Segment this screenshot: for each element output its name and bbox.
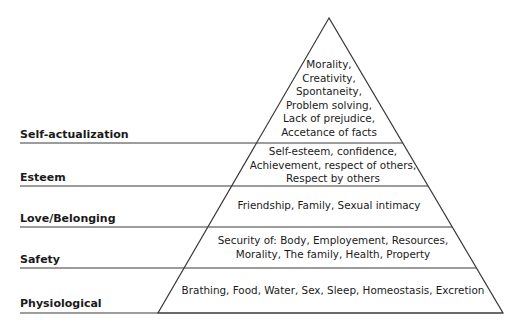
- tier-love-belonging-text: Friendship, Family, Sexual intimacy: [238, 199, 421, 213]
- maslow-pyramid-diagram: Self-actualization Esteem Love/Belonging…: [0, 0, 517, 330]
- label-physiological: Physiological: [20, 297, 102, 310]
- tier-text-line: Achievement, respect of others,: [250, 159, 416, 173]
- tier-text-line: Spontaneity,: [281, 85, 377, 99]
- tier-text-line: Morality, The family, Health, Property: [218, 248, 448, 262]
- tier-self-actualization-text: Morality, Creativity, Spontaneity, Probl…: [281, 58, 377, 139]
- label-love-belonging: Love/Belonging: [20, 212, 116, 225]
- tier-text-line: Self-esteem, confidence,: [250, 145, 416, 159]
- tier-safety-text: Security of: Body, Employement, Resource…: [218, 234, 448, 261]
- label-esteem: Esteem: [20, 171, 66, 184]
- tier-text-line: Morality,: [281, 58, 377, 72]
- tier-physiological-text: Brathing, Food, Water, Sex, Sleep, Homeo…: [182, 284, 485, 298]
- tier-text-line: Accetance of facts: [281, 126, 377, 140]
- label-self-actualization: Self-actualization: [20, 128, 129, 141]
- tier-text-line: Brathing, Food, Water, Sex, Sleep, Homeo…: [182, 284, 485, 298]
- tier-esteem-text: Self-esteem, confidence, Achievement, re…: [250, 145, 416, 186]
- tier-text-line: Friendship, Family, Sexual intimacy: [238, 199, 421, 213]
- tier-text-line: Creativity,: [281, 72, 377, 86]
- tier-text-line: Respect by others: [250, 172, 416, 186]
- label-safety: Safety: [20, 253, 60, 266]
- tier-text-line: Problem solving,: [281, 99, 377, 113]
- tier-text-line: Security of: Body, Employement, Resource…: [218, 234, 448, 248]
- tier-text-line: Lack of prejudice,: [281, 112, 377, 126]
